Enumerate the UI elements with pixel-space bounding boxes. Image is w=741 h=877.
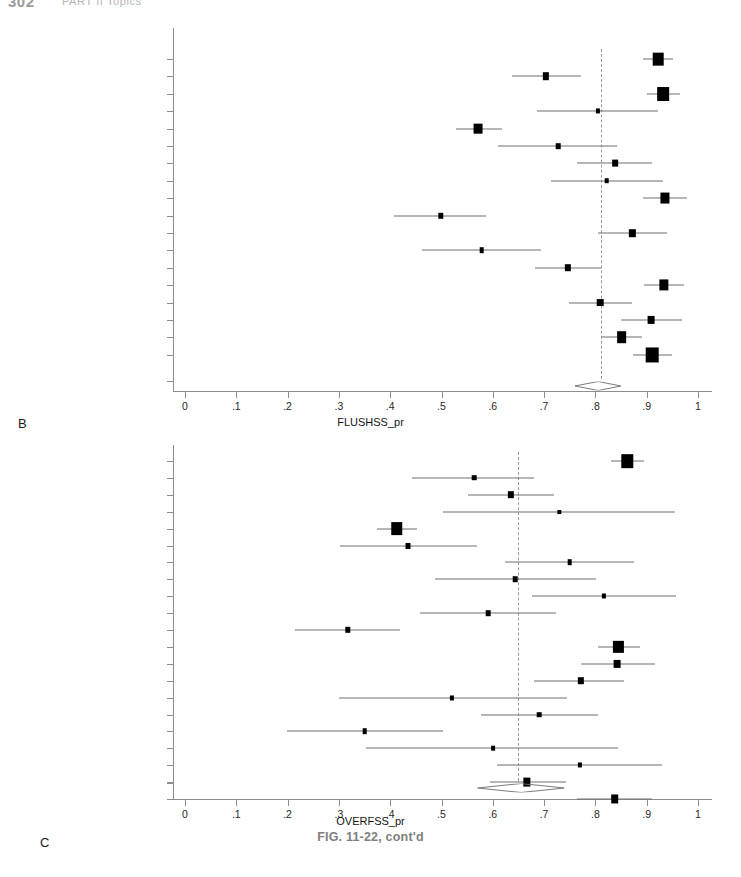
x-axis-tick [390, 800, 391, 806]
y-axis-tick [167, 596, 173, 597]
effect-marker [567, 560, 572, 566]
x-axis-tick [185, 800, 186, 806]
y-axis-tick [167, 731, 173, 732]
x-axis-tick [390, 392, 391, 398]
y-axis-tick-combined [167, 783, 173, 784]
effect-marker [345, 627, 350, 633]
x-axis-line [173, 391, 712, 392]
y-axis-tick [167, 250, 173, 251]
x-axis-tick [595, 392, 596, 398]
y-axis-tick [167, 664, 173, 665]
y-axis-tick [167, 512, 173, 513]
x-axis-tick [339, 392, 340, 398]
y-axis-tick [167, 320, 173, 321]
y-axis-tick [167, 748, 173, 749]
effect-marker [648, 316, 655, 324]
y-axis-tick [167, 181, 173, 182]
effect-marker [617, 332, 627, 344]
y-axis-tick [167, 579, 173, 580]
effect-marker [391, 522, 403, 536]
x-axis-tick [442, 392, 443, 398]
effect-marker [362, 729, 367, 735]
x-axis-tick-label: .2 [273, 400, 303, 412]
y-axis-tick-combined [167, 381, 173, 382]
y-axis-tick [167, 198, 173, 199]
y-axis-tick [167, 146, 173, 147]
x-axis-tick [442, 800, 443, 806]
effect-marker [474, 123, 483, 134]
x-axis-tick-label: 0 [170, 400, 200, 412]
x-axis-tick [288, 800, 289, 806]
effect-marker [438, 212, 443, 218]
effect-marker [578, 763, 582, 768]
effect-marker [542, 73, 548, 81]
y-axis-tick [167, 268, 173, 269]
y-axis-line [173, 445, 174, 799]
x-axis-tick [185, 392, 186, 398]
y-axis-tick [167, 546, 173, 547]
x-axis-tick [493, 800, 494, 806]
y-axis-tick [167, 233, 173, 234]
effect-marker [611, 794, 619, 803]
x-axis-tick-label: .5 [427, 400, 457, 412]
x-axis-tick-label: .3 [324, 400, 354, 412]
y-axis-tick [167, 630, 173, 631]
y-axis-tick [167, 129, 173, 130]
effect-marker [472, 475, 477, 481]
x-axis-tick-label: .4 [375, 400, 405, 412]
y-axis-tick [167, 163, 173, 164]
effect-marker [657, 87, 669, 101]
effect-marker [537, 712, 542, 718]
y-axis-tick [167, 285, 173, 286]
effect-marker [596, 109, 600, 114]
effect-marker [508, 491, 514, 499]
x-axis-tick [339, 800, 340, 806]
y-axis-tick [167, 765, 173, 766]
x-axis-tick-label: .8 [580, 400, 610, 412]
y-axis-tick [167, 495, 173, 496]
y-axis-line [173, 28, 174, 391]
x-axis-tick-label: .9 [632, 400, 662, 412]
y-axis-tick [167, 647, 173, 648]
y-axis-tick [167, 698, 173, 699]
forest-plot-panel-b: 0.1.2.3.4.5.6.7.8.91Harty et al. 1970Hel… [0, 0, 741, 440]
effect-marker [660, 193, 669, 204]
effect-marker [614, 660, 621, 668]
effect-marker [578, 677, 584, 685]
y-axis-tick [167, 111, 173, 112]
x-axis-tick [647, 392, 648, 398]
effect-marker [622, 454, 633, 468]
effect-marker [629, 229, 635, 237]
effect-marker [558, 510, 561, 514]
effect-marker [486, 610, 491, 616]
effect-marker [659, 280, 668, 291]
effect-marker [513, 577, 518, 583]
effect-marker [479, 248, 484, 254]
effect-marker [602, 594, 606, 599]
x-axis-tick [544, 800, 545, 806]
x-axis-tick [595, 800, 596, 806]
y-axis-tick [167, 216, 173, 217]
reference-line [601, 49, 602, 379]
x-axis-tick [288, 392, 289, 398]
y-axis-tick [167, 799, 173, 800]
y-axis-tick [167, 478, 173, 479]
forest-plot-panel-c: 0.1.2.3.4.5.6.7.8.91Harty et al.1970Heli… [0, 440, 741, 840]
effect-marker [597, 299, 604, 307]
reference-line [518, 452, 519, 781]
effect-marker [646, 347, 659, 362]
effect-marker [613, 641, 623, 653]
x-axis-title-c: OVERFSS_pr [0, 815, 741, 827]
x-axis-tick [647, 800, 648, 806]
y-axis-tick [167, 76, 173, 77]
x-axis-tick [236, 392, 237, 398]
effect-marker [604, 178, 609, 184]
effect-marker [565, 264, 571, 272]
y-axis-tick [167, 355, 173, 356]
x-axis-tick [544, 392, 545, 398]
effect-marker [612, 160, 618, 167]
y-axis-tick [167, 529, 173, 530]
x-axis-tick [493, 392, 494, 398]
combined-diamond [477, 779, 564, 788]
y-axis-tick [167, 613, 173, 614]
